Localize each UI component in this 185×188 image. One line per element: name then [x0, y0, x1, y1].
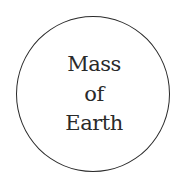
label-line-3: Earth — [0, 109, 185, 139]
label-line-1: Mass — [0, 50, 185, 80]
label-line-2: of — [0, 80, 185, 110]
circle-label: Mass of Earth — [0, 50, 185, 139]
